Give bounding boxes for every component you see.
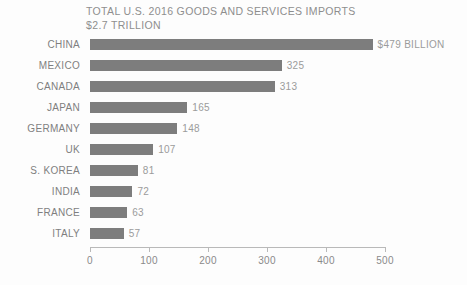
x-axis-tick xyxy=(149,247,150,252)
bar xyxy=(90,102,187,113)
bar-value-label: 72 xyxy=(137,185,149,198)
bar-row: S. KOREA81 xyxy=(0,164,467,185)
axis-line xyxy=(90,247,385,248)
chart-title-block: TOTAL U.S. 2016 GOODS AND SERVICES IMPOR… xyxy=(86,4,426,32)
category-label: FRANCE xyxy=(0,206,80,219)
bar-row: ITALY57 xyxy=(0,227,467,248)
category-label: CANADA xyxy=(0,80,80,93)
x-axis-tick-label: 300 xyxy=(247,255,287,266)
bar-row: INDIA72 xyxy=(0,185,467,206)
bar-row: GERMANY148 xyxy=(0,122,467,143)
plot-area: CHINA$479 BILLIONMEXICO325CANADA313JAPAN… xyxy=(0,38,467,246)
x-axis-tick xyxy=(208,247,209,252)
category-label: S. KOREA xyxy=(0,164,80,177)
bar-value-label: 107 xyxy=(158,143,176,156)
bar-row: FRANCE63 xyxy=(0,206,467,227)
bar xyxy=(90,81,275,92)
category-label: INDIA xyxy=(0,185,80,198)
bar xyxy=(90,60,282,71)
bar-chart: TOTAL U.S. 2016 GOODS AND SERVICES IMPOR… xyxy=(0,0,467,285)
bar-value-label: 81 xyxy=(143,164,155,177)
bar xyxy=(90,207,127,218)
x-axis-tick xyxy=(326,247,327,252)
bar-value-label: 165 xyxy=(192,101,210,114)
bar-row: JAPAN165 xyxy=(0,101,467,122)
x-axis-tick-label: 400 xyxy=(306,255,346,266)
bar xyxy=(90,228,124,239)
bar xyxy=(90,186,132,197)
x-axis: 0100200300400500 xyxy=(0,247,467,285)
bar xyxy=(90,39,373,50)
bar-row: CHINA$479 BILLION xyxy=(0,38,467,59)
page-title: TOTAL U.S. 2016 GOODS AND SERVICES IMPOR… xyxy=(86,4,426,18)
category-label: UK xyxy=(0,143,80,156)
x-axis-tick xyxy=(90,247,91,252)
bar xyxy=(90,144,153,155)
bar-value-label: 63 xyxy=(132,206,144,219)
bar-row: UK107 xyxy=(0,143,467,164)
bar xyxy=(90,123,177,134)
x-axis-tick xyxy=(385,247,386,252)
chart-subtitle: $2.7 TRILLION xyxy=(86,18,426,32)
x-axis-tick-label: 0 xyxy=(70,255,110,266)
bar-value-label: $479 BILLION xyxy=(378,38,445,51)
x-axis-tick-label: 100 xyxy=(129,255,169,266)
x-axis-tick xyxy=(267,247,268,252)
bar xyxy=(90,165,138,176)
category-label: MEXICO xyxy=(0,59,80,72)
category-label: GERMANY xyxy=(0,122,80,135)
x-axis-tick-label: 500 xyxy=(365,255,405,266)
bar-row: MEXICO325 xyxy=(0,59,467,80)
bar-value-label: 57 xyxy=(129,227,141,240)
bar-row: CANADA313 xyxy=(0,80,467,101)
bar-value-label: 325 xyxy=(287,59,305,72)
bar-value-label: 313 xyxy=(280,80,298,93)
category-label: JAPAN xyxy=(0,101,80,114)
x-axis-tick-label: 200 xyxy=(188,255,228,266)
category-label: CHINA xyxy=(0,38,80,51)
bar-value-label: 148 xyxy=(182,122,200,135)
category-label: ITALY xyxy=(0,227,80,240)
